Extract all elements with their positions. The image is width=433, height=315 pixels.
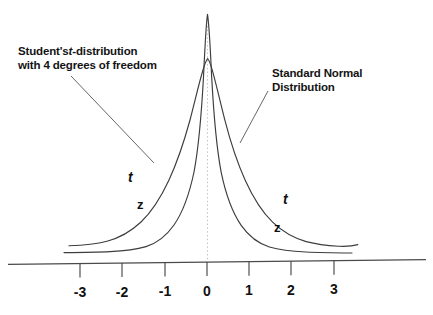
callout-normal-line2: Distribution bbox=[272, 80, 362, 94]
callout-t-line1: Student'st-distribution bbox=[18, 44, 157, 58]
x-axis-line bbox=[8, 260, 426, 265]
statistics-figure: Student'st-distribution with 4 degrees o… bbox=[0, 0, 433, 315]
x-tick-label: -3 bbox=[67, 284, 93, 300]
leader-line-t-distribution bbox=[71, 76, 154, 163]
x-tick-label: -2 bbox=[109, 284, 135, 300]
curve-label-t-left: t bbox=[128, 169, 133, 185]
x-tick-label: -1 bbox=[152, 283, 178, 299]
callout-t-text-b: -distribution bbox=[72, 45, 137, 57]
x-tick-label: 2 bbox=[278, 282, 304, 298]
x-tick-label: 0 bbox=[194, 283, 220, 299]
curve-label-z-right: z bbox=[274, 220, 281, 235]
callout-t-distribution: Student'st-distribution with 4 degrees o… bbox=[18, 44, 157, 72]
callout-standard-normal: Standard Normal Distribution bbox=[272, 66, 362, 94]
callout-normal-line1: Standard Normal bbox=[272, 66, 362, 80]
curve-label-t-right: t bbox=[283, 191, 288, 207]
leader-line-standard-normal bbox=[240, 91, 268, 143]
curve-label-z-left: z bbox=[137, 197, 144, 212]
x-tick-label: 3 bbox=[321, 281, 347, 297]
x-tick-label: 1 bbox=[236, 282, 262, 298]
callout-t-line2: with 4 degrees of freedom bbox=[18, 58, 157, 72]
callout-t-text-a: Student's bbox=[18, 45, 69, 57]
